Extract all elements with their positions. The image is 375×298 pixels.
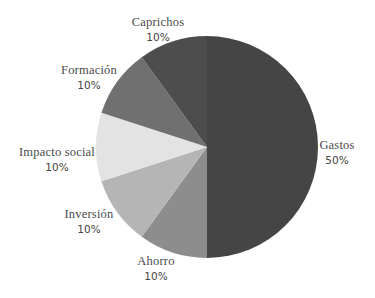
- slice-percent: 50%: [319, 153, 354, 168]
- slice-name: Inversión: [64, 207, 113, 222]
- slice-percent: 10%: [132, 30, 184, 45]
- slice-label-formacion: Formación 10%: [61, 63, 117, 93]
- slice-percent: 10%: [64, 222, 113, 237]
- slice-label-caprichos: Caprichos 10%: [132, 15, 184, 45]
- slice-label-inversion: Inversión 10%: [64, 207, 113, 237]
- slice-name: Caprichos: [132, 15, 184, 30]
- slice-label-ahorro: Ahorro 10%: [137, 254, 174, 284]
- slice-name: Gastos: [319, 138, 354, 153]
- slice-percent: 10%: [137, 269, 174, 284]
- pie-slice-gastos: [207, 36, 318, 258]
- slice-name: Impacto social: [19, 145, 95, 160]
- slice-percent: 10%: [61, 78, 117, 93]
- slice-label-gastos: Gastos 50%: [319, 138, 354, 168]
- slice-label-impacto-social: Impacto social 10%: [19, 145, 95, 175]
- slice-name: Formación: [61, 63, 117, 78]
- slice-name: Ahorro: [137, 254, 174, 269]
- slice-percent: 10%: [19, 160, 95, 175]
